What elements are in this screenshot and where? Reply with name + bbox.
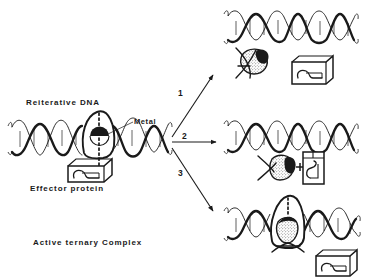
label-active-ternary-complex: Active ternary Complex — [33, 238, 142, 247]
panel-2-dna — [224, 121, 358, 154]
arrow-label-1: 1 — [178, 88, 183, 98]
label-reiterative-dna: Reiterative DNA — [26, 98, 100, 107]
effector-protein-box — [68, 159, 112, 182]
panel-1-dna — [224, 11, 358, 44]
arrow-1 — [172, 75, 213, 137]
panel-1-effector-protein-box — [292, 56, 333, 84]
figure-canvas: Reiterative DNA Metal Effector protein A… — [0, 0, 375, 279]
label-effector-protein: Effector protein — [30, 184, 104, 193]
label-metal: Metal — [134, 117, 156, 126]
panel-3-effector-protein-box — [316, 250, 357, 276]
panel-2-metal-blob — [258, 155, 296, 180]
arrow-label-3: 3 — [178, 168, 183, 178]
arrow-3 — [172, 148, 213, 211]
arrow-label-2: 2 — [182, 131, 187, 141]
panel-1-metal-blob — [236, 48, 269, 78]
panel-2-effector-protein-box-upright — [303, 152, 324, 184]
